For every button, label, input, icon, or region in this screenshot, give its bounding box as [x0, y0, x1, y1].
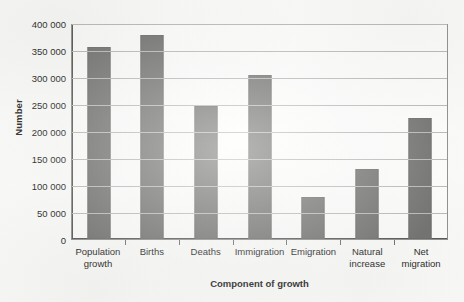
x-axis-tick-label: Netmigration	[394, 246, 448, 269]
x-axis-tick-label: Births	[125, 246, 179, 269]
x-axis-tick-label: Populationgrowth	[71, 246, 125, 269]
bar[interactable]	[141, 35, 164, 239]
y-axis-tick-labels: 050 000100 000150 000200 000250 000300 0…	[8, 0, 66, 302]
gridline	[72, 51, 447, 52]
x-axis-tick-label: Deaths	[179, 246, 233, 269]
x-axis-tick	[233, 240, 234, 245]
x-axis-tick-labels: PopulationgrowthBirthsDeathsImmigrationE…	[71, 246, 448, 269]
y-axis-tick-label: 150 000	[8, 154, 66, 165]
gridline	[72, 159, 447, 160]
gridline	[72, 132, 447, 133]
x-axis-tick	[125, 240, 126, 245]
bar[interactable]	[194, 106, 217, 239]
y-axis-tick-label: 250 000	[8, 100, 66, 111]
y-axis-tick-label: 300 000	[8, 73, 66, 84]
x-axis-ticks	[71, 240, 448, 245]
bar-chart-figure: Number 050 000100 000150 000200 000250 0…	[0, 0, 464, 302]
gridline	[72, 213, 447, 214]
plot-area	[71, 24, 448, 240]
bar[interactable]	[248, 75, 271, 239]
gridline	[72, 186, 447, 187]
x-axis-tick-label: Naturalincrease	[340, 246, 394, 269]
y-axis-tick-label: 350 000	[8, 46, 66, 57]
bar[interactable]	[302, 197, 325, 239]
x-axis-title: Component of growth	[71, 278, 448, 289]
y-axis-tick-label: 400 000	[8, 19, 66, 30]
bar[interactable]	[409, 118, 432, 239]
x-axis-tick	[394, 240, 395, 245]
gridline	[72, 78, 447, 79]
gridline	[72, 24, 447, 25]
gridline	[72, 105, 447, 106]
y-axis-tick-label: 200 000	[8, 127, 66, 138]
x-axis-tick-label: Immigration	[233, 246, 287, 269]
x-axis-tick	[340, 240, 341, 245]
x-axis-tick	[286, 240, 287, 245]
x-axis-tick	[179, 240, 180, 245]
bar[interactable]	[355, 169, 378, 239]
y-axis-tick-label: 100 000	[8, 181, 66, 192]
y-axis-tick-label: 0	[8, 235, 66, 246]
y-axis-tick-label: 50 000	[8, 208, 66, 219]
bar[interactable]	[87, 47, 110, 239]
x-axis-tick-label: Emigration	[286, 246, 340, 269]
